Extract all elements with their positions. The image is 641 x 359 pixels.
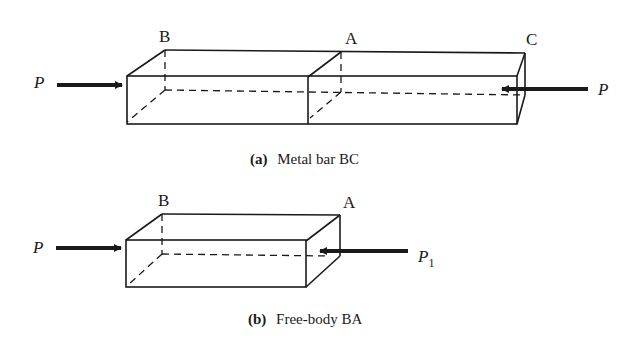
- point-label-b-a: B: [159, 27, 170, 46]
- caption-b-letter: (b): [248, 311, 266, 328]
- bar-top-back-edge: [165, 50, 525, 53]
- fb-top-back-edge: [162, 214, 340, 215]
- bar-top-right-edge: [517, 53, 525, 76]
- force-label-p1-subscript: 1: [428, 256, 434, 270]
- force-label-left-a: P: [33, 73, 44, 92]
- force-label-right-a: P: [597, 80, 608, 99]
- point-label-a-b: A: [343, 193, 356, 212]
- caption-a-text: Metal bar BC: [277, 151, 359, 167]
- fb-top-right-edge: [306, 215, 340, 241]
- fb-right-bottom-edge: [306, 256, 340, 287]
- bar-right-bottom-edge: [517, 95, 525, 124]
- point-label-a-a: A: [345, 29, 358, 48]
- force-label-right-b: P1: [417, 247, 434, 270]
- section-a-top: [308, 52, 341, 77]
- fb-hidden-left-diagonal: [128, 254, 162, 285]
- caption-a: (a) Metal bar BC: [250, 151, 359, 168]
- caption-b: (b) Free-body BA: [248, 311, 362, 328]
- fb-front-face: [126, 240, 306, 287]
- figure-b-free-body: [126, 214, 340, 287]
- point-label-b-b: B: [158, 191, 169, 210]
- force-label-p1-main: P: [417, 247, 428, 266]
- fb-hidden-bottom-back: [162, 254, 330, 256]
- caption-b-text: Free-body BA: [276, 311, 362, 327]
- point-label-c-a: C: [526, 30, 537, 49]
- figure-a-metal-bar: [127, 50, 525, 124]
- fb-top-left-edge: [126, 214, 162, 240]
- hidden-bottom-back: [165, 90, 525, 95]
- bar-front-face: [127, 76, 517, 124]
- hidden-left-diagonal: [127, 90, 165, 122]
- force-label-left-b: P: [32, 238, 43, 257]
- diagram-canvas: P P B A C (a) Metal bar BC P P1 B A (b) …: [0, 0, 641, 359]
- caption-a-letter: (a): [250, 151, 268, 168]
- bar-top-left-edge: [127, 50, 165, 76]
- hidden-mid-diagonal: [310, 92, 341, 118]
